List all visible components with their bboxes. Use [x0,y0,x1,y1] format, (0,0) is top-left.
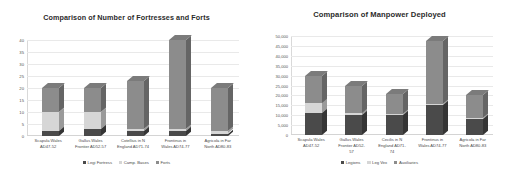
chart-title-left: Comparison of Number of Fortresses and F… [0,13,253,22]
y-tick-label: 50,000 [275,34,288,39]
legend-item[interactable]: Leg Vex [367,160,387,165]
bar-segment [305,113,322,135]
bar-segment [169,40,186,129]
x-tick-label: Gallus Wales Frontier AD52- 57 [331,137,371,155]
legend-item[interactable]: Forts [156,160,170,165]
bars-right [291,36,493,135]
bar-stack [84,88,101,136]
bar-segment-side [403,111,408,135]
y-tick-label: 5,000 [278,123,288,128]
legend-swatch-icon [394,161,397,164]
chart-fortresses-and-forts: Comparison of Number of Fortresses and F… [0,0,253,171]
y-tick-label: 10 [19,110,24,115]
bar-segment [426,105,443,135]
bar-segment [169,131,186,136]
bar-segment-side [483,115,488,135]
y-tick-label: 40 [19,38,24,43]
bar-segment-side [443,101,448,135]
legend-item[interactable]: Legions [341,160,360,165]
plot-area-right: 05,00010,00015,00020,00025,00030,00035,0… [291,36,493,135]
bar-segment [84,88,101,112]
y-tick-label: 25,000 [275,83,288,88]
bar-segment [211,134,228,136]
legend-swatch-icon [119,161,122,164]
x-tick-label: Agricola in Far North AD80-83 [197,138,239,150]
bar-segment [305,103,322,113]
y-tick-label: 20 [19,86,24,91]
bar-segment [386,115,403,135]
legend-left: Legi FortressCamp. BasesForts [0,160,253,165]
x-tick-label: Cecilis in N England AD71- 74 [372,137,412,155]
bar-stack [386,94,403,135]
bar-segment [466,119,483,135]
bar-segment [466,95,483,118]
y-tick-label: 35,000 [275,63,288,68]
y-tick-label: 5 [22,122,24,127]
x-tick-label: Frontinus in Wales AD74-77 [154,138,196,150]
y-tick-label: 25 [19,74,24,79]
x-tick-label: Gallus Wales Frontier AD52-57 [69,138,111,150]
y-tick-label: 35 [19,50,24,55]
y-tick-label: 20,000 [275,93,288,98]
y-tick-label: 40,000 [275,53,288,58]
x-tick-label: Scapula Wales AD47-52 [291,137,331,149]
bar-segment-side [322,109,327,135]
chart-manpower-deployed: Comparison of Manpower Deployed 05,00010… [253,0,506,171]
y-tick-label: 30,000 [275,73,288,78]
y-tick-label: 30 [19,62,24,67]
x-tick-label: Cotellius in N England AD71-74 [112,138,154,150]
bar-segment-side [362,111,367,135]
y-tick-label: 15 [19,98,24,103]
bar-segment [386,94,403,114]
bar-segment-side [443,37,448,105]
y-tick-label: 0 [286,133,288,138]
bar-segment [127,81,144,129]
legend-right: LegionsLeg VexAuxiliaries [253,160,506,165]
legend-item[interactable]: Legi Fortress [83,160,112,165]
bar-stack [426,41,443,135]
bar-segment [345,86,362,114]
bar-segment [42,112,59,131]
bar-segment [42,88,59,112]
legend-label: Camp. Bases [124,160,149,165]
bar-segment [345,115,362,135]
legend-swatch-icon [341,161,344,164]
legend-label: Auxiliaries [399,160,418,165]
bar-segment [127,131,144,136]
bar-segment [211,88,228,131]
plot-area-left: 0510152025303540 Scapula Wales AD47-52Ga… [27,40,239,136]
bar-segment [305,76,322,104]
y-tick-label: 0 [22,134,24,139]
legend-swatch-icon [367,161,370,164]
legend-item[interactable]: Camp. Bases [119,160,149,165]
bars-left [27,40,239,136]
charts-container: Comparison of Number of Fortresses and F… [0,0,506,171]
bar-segment [42,131,59,136]
legend-label: Legi Fortress [88,160,112,165]
chart-title-right: Comparison of Manpower Deployed [253,10,506,19]
bar-stack [305,76,322,135]
x-tick-label: Frontinus in Wales AD74-77 [412,137,452,149]
y-tick-label: 15,000 [275,103,288,108]
legend-label: Forts [161,160,171,165]
bar-segment-side [228,84,233,131]
bar-segment [84,129,101,136]
bar-segment [426,41,443,104]
y-tick-label: 45,000 [275,43,288,48]
y-tick-label: 10,000 [275,113,288,118]
bar-stack [466,95,483,135]
bar-stack [127,81,144,136]
bar-stack [345,86,362,135]
legend-swatch-icon [83,161,86,164]
bar-segment [84,112,101,129]
bar-stack [169,40,186,136]
legend-swatch-icon [156,161,159,164]
legend-label: Leg Vex [372,160,387,165]
legend-item[interactable]: Auxiliaries [394,160,418,165]
bar-stack [211,88,228,136]
bar-stack [42,88,59,136]
legend-label: Legions [346,160,361,165]
bar-segment-side [144,77,149,129]
bar-segment-side [186,36,191,129]
x-tick-label: Scapula Wales AD47-52 [27,138,69,150]
